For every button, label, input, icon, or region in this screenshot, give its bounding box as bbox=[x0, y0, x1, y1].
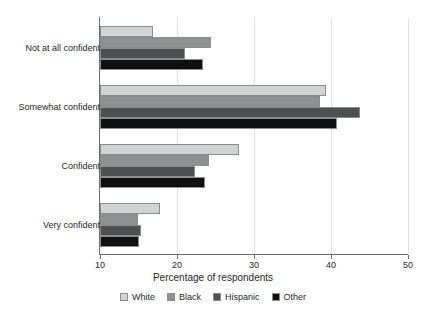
category-label: Confident bbox=[0, 161, 100, 171]
x-tick-label: 20 bbox=[172, 260, 182, 270]
bar-group bbox=[100, 144, 408, 188]
x-tick-label: 50 bbox=[403, 260, 413, 270]
bar bbox=[100, 203, 160, 214]
bar-group bbox=[100, 203, 408, 247]
x-tick-label: 40 bbox=[326, 260, 336, 270]
legend-item[interactable]: Hispanic bbox=[213, 292, 260, 302]
x-axis-title: Percentage of respondents bbox=[0, 272, 426, 283]
legend-label: White bbox=[132, 292, 155, 302]
bar-group bbox=[100, 85, 408, 129]
category-label: Very confident bbox=[0, 220, 100, 230]
x-tick-mark bbox=[100, 255, 101, 259]
bar bbox=[100, 177, 205, 188]
bar bbox=[100, 26, 153, 37]
bar-chart: 1020304050 Not at all confidentSomewhat … bbox=[0, 0, 426, 323]
bar bbox=[100, 85, 326, 96]
legend-swatch-icon bbox=[120, 293, 128, 301]
category-label: Not at all confident bbox=[0, 43, 100, 53]
legend-label: Other bbox=[284, 292, 307, 302]
x-tick-mark bbox=[331, 255, 332, 259]
bar bbox=[100, 37, 211, 48]
legend-swatch-icon bbox=[272, 293, 280, 301]
bar bbox=[100, 236, 139, 247]
bar bbox=[100, 96, 320, 107]
category-label: Somewhat confident bbox=[0, 102, 100, 112]
x-tick-mark bbox=[408, 255, 409, 259]
bar-group bbox=[100, 26, 408, 70]
legend-item[interactable]: Other bbox=[272, 292, 307, 302]
x-tick-mark bbox=[177, 255, 178, 259]
legend-swatch-icon bbox=[213, 293, 221, 301]
legend-swatch-icon bbox=[167, 293, 175, 301]
bar bbox=[100, 144, 239, 155]
x-tick-mark bbox=[254, 255, 255, 259]
legend-label: Black bbox=[179, 292, 201, 302]
bar bbox=[100, 225, 141, 236]
legend-item[interactable]: Black bbox=[167, 292, 201, 302]
bar bbox=[100, 166, 195, 177]
bar bbox=[100, 214, 138, 225]
x-tick-label: 30 bbox=[249, 260, 259, 270]
legend: WhiteBlackHispanicOther bbox=[0, 292, 426, 302]
gridline bbox=[408, 18, 409, 254]
bar bbox=[100, 155, 209, 166]
bar bbox=[100, 48, 185, 59]
bar bbox=[100, 59, 203, 70]
bar bbox=[100, 107, 360, 118]
bar bbox=[100, 118, 337, 129]
x-tick-label: 10 bbox=[95, 260, 105, 270]
plot-area bbox=[100, 18, 408, 254]
legend-label: Hispanic bbox=[225, 292, 260, 302]
legend-item[interactable]: White bbox=[120, 292, 155, 302]
